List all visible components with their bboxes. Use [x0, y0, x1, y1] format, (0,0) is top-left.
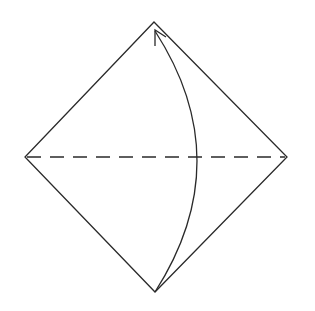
- origami-diagram: [0, 0, 315, 311]
- fold-arrow: [155, 31, 197, 292]
- diagram-svg: [0, 0, 315, 311]
